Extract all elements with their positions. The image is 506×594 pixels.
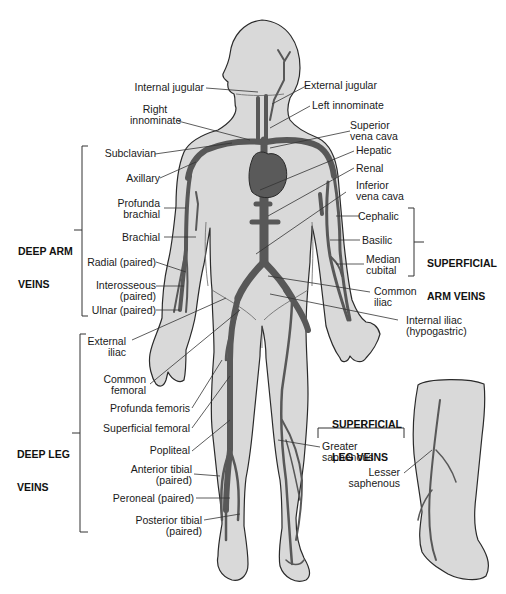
label-text: Peroneal (paired)	[113, 493, 194, 504]
group-superficial-leg-veins: SUPERFICIAL LEG VEINS	[332, 397, 402, 474]
label-popliteal: Popliteal	[150, 445, 190, 456]
group-title: VEINS	[18, 279, 73, 290]
label-median-cubital: Median cubital	[366, 254, 400, 276]
label-text: vena cava	[356, 191, 404, 202]
label-renal: Renal	[356, 163, 383, 174]
label-profunda-brachial: Profunda brachial	[117, 198, 160, 220]
label-peroneal: Peroneal (paired)	[113, 493, 194, 504]
label-superior-vena-cava: Superior vena cava	[350, 120, 398, 142]
label-text: vena cava	[350, 131, 398, 142]
label-superficial-femoral: Superficial femoral	[103, 423, 190, 434]
label-text: iliac	[374, 297, 417, 308]
label-brachial: Brachial	[122, 232, 160, 243]
label-text: Superficial femoral	[103, 423, 190, 434]
label-text: (paired)	[131, 475, 192, 486]
label-internal-iliac: Internal iliac (hypogastric)	[406, 315, 467, 337]
label-common-femoral: Common femoral	[103, 374, 146, 396]
label-text: (hypogastric)	[406, 326, 467, 337]
label-right-innominate: Right innominate	[130, 104, 180, 126]
label-basilic: Basilic	[362, 235, 392, 246]
label-radial: Radial (paired)	[87, 257, 156, 268]
label-text: (paired)	[135, 526, 202, 537]
group-title: SUPERFICIAL	[332, 419, 402, 430]
label-text: innominate	[130, 115, 180, 126]
label-text: brachial	[117, 209, 160, 220]
label-text: cubital	[366, 265, 400, 276]
label-external-jugular: External jugular	[304, 80, 377, 91]
label-common-iliac: Common iliac	[374, 286, 417, 308]
label-text: Radial (paired)	[87, 257, 156, 268]
label-text: External jugular	[304, 80, 377, 91]
label-text: Left innominate	[312, 100, 384, 111]
label-interosseous: Interosseous (paired)	[96, 280, 156, 302]
label-subclavian: Subclavian	[105, 148, 156, 159]
label-anterior-tibial: Anterior tibial (paired)	[131, 464, 192, 486]
superficial-arm-bracket	[408, 208, 424, 276]
group-title: SUPERFICIAL	[427, 258, 497, 269]
label-text: Profunda femoris	[110, 403, 190, 414]
group-title: LEG VEINS	[332, 452, 402, 463]
label-text: Ulnar (paired)	[92, 305, 156, 316]
label-text: Renal	[356, 163, 383, 174]
group-title: ARM VEINS	[427, 291, 497, 302]
deep-arm-bracket	[74, 146, 88, 316]
label-inferior-vena-cava: Inferior vena cava	[356, 180, 404, 202]
label-left-innominate: Left innominate	[312, 100, 384, 111]
label-external-iliac: External iliac	[87, 336, 126, 358]
label-posterior-tibial: Posterior tibial (paired)	[135, 515, 202, 537]
group-title: DEEP LEG	[17, 449, 70, 460]
label-internal-jugular: Internal jugular	[135, 82, 204, 93]
label-text: Cephalic	[358, 211, 399, 222]
group-deep-arm-veins: DEEP ARM VEINS	[18, 224, 73, 301]
label-profunda-femoris: Profunda femoris	[110, 403, 190, 414]
label-text: iliac	[87, 347, 126, 358]
label-text: femoral	[103, 385, 146, 396]
deep-leg-bracket	[72, 334, 88, 532]
group-superficial-arm-veins: SUPERFICIAL ARM VEINS	[427, 236, 497, 313]
label-text: Subclavian	[105, 148, 156, 159]
heart	[249, 152, 287, 198]
label-text: Brachial	[122, 232, 160, 243]
group-deep-leg-veins: DEEP LEG VEINS	[17, 427, 70, 504]
label-text: Internal jugular	[135, 82, 204, 93]
group-title: DEEP ARM	[18, 246, 73, 257]
label-ulnar: Ulnar (paired)	[92, 305, 156, 316]
label-text: (paired)	[96, 291, 156, 302]
label-axillary: Axillary	[126, 173, 160, 184]
label-cephalic: Cephalic	[358, 211, 399, 222]
label-text: Popliteal	[150, 445, 190, 456]
label-text: Hepatic	[356, 145, 392, 156]
group-title: VEINS	[17, 482, 70, 493]
label-hepatic: Hepatic	[356, 145, 392, 156]
label-text: Axillary	[126, 173, 160, 184]
label-text: Basilic	[362, 235, 392, 246]
label-text: saphenous	[349, 478, 400, 489]
